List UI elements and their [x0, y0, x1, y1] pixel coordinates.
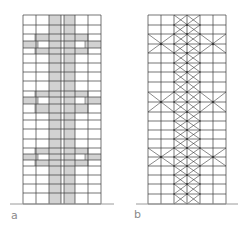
brace-node — [186, 33, 188, 35]
outrigger-band — [35, 104, 49, 113]
outrigger-band — [85, 97, 101, 104]
outrigger-band — [35, 48, 49, 54]
outrigger-band — [85, 41, 101, 48]
outrigger-band — [35, 148, 49, 154]
outrigger-band — [35, 160, 49, 166]
outrigger-band — [75, 34, 88, 41]
brace-node — [186, 62, 188, 64]
brace-node — [186, 165, 188, 167]
brace-node — [199, 138, 201, 140]
brace-node — [186, 138, 188, 140]
brace-node — [173, 71, 175, 73]
outrigger-band — [75, 148, 88, 154]
brace-node — [186, 71, 188, 73]
brace-node — [186, 43, 188, 45]
brace-node — [186, 120, 188, 122]
brace-node — [173, 24, 175, 26]
outrigger-band — [35, 91, 49, 97]
brace-node — [186, 174, 188, 176]
brace-node — [186, 129, 188, 131]
brace-node — [173, 129, 175, 131]
brace-node — [186, 193, 188, 195]
core-shaft — [64, 15, 75, 204]
outrigger-node — [212, 156, 215, 159]
brace-node — [186, 183, 188, 185]
brace-node — [186, 147, 188, 149]
brace-node — [199, 183, 201, 185]
outrigger-node — [212, 101, 215, 104]
panel-a-shaded-core-frame — [10, 15, 114, 204]
brace-node — [199, 174, 201, 176]
outrigger-band — [35, 34, 49, 41]
brace-node — [173, 183, 175, 185]
brace-node — [199, 62, 201, 64]
brace-node — [186, 52, 188, 54]
brace-node — [186, 111, 188, 113]
brace-node — [186, 81, 188, 83]
brace-node — [173, 62, 175, 64]
brace-node — [173, 174, 175, 176]
brace-node — [173, 43, 175, 45]
brace-node — [173, 101, 175, 103]
brace-node — [173, 138, 175, 140]
brace-node — [199, 71, 201, 73]
brace-node — [199, 156, 201, 158]
outrigger-band — [75, 48, 88, 54]
outrigger-band — [75, 104, 88, 113]
outrigger-band — [85, 154, 101, 160]
brace-node — [173, 81, 175, 83]
brace-node — [186, 91, 188, 93]
brace-node — [199, 43, 201, 45]
outrigger-node — [160, 156, 163, 159]
core-shaft — [49, 15, 61, 204]
brace-node — [173, 156, 175, 158]
brace-node — [199, 24, 201, 26]
outrigger-band — [75, 91, 88, 97]
structural-diagram — [0, 0, 246, 231]
outrigger-node — [212, 43, 215, 46]
outrigger-node — [160, 101, 163, 104]
brace-node — [173, 193, 175, 195]
brace-node — [199, 193, 201, 195]
panel-label-b: b — [134, 209, 141, 220]
outrigger-node — [160, 43, 163, 46]
brace-node — [186, 156, 188, 158]
brace-node — [186, 101, 188, 103]
brace-node — [199, 101, 201, 103]
brace-node — [199, 129, 201, 131]
brace-node — [199, 81, 201, 83]
brace-node — [186, 24, 188, 26]
brace-node — [199, 120, 201, 122]
outrigger-band — [75, 160, 88, 166]
panel-b-braced-core-frame — [136, 15, 238, 204]
panel-label-a: a — [11, 210, 18, 221]
brace-node — [173, 120, 175, 122]
